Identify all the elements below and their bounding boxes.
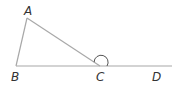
segment-ac xyxy=(27,18,100,66)
segment-ab xyxy=(16,18,27,66)
label-d: D xyxy=(152,70,161,84)
exterior-angle-arc xyxy=(94,55,108,66)
label-c: C xyxy=(96,70,105,84)
label-a: A xyxy=(23,4,32,18)
label-b: B xyxy=(11,70,19,84)
triangle-diagram: A B C D xyxy=(0,0,177,85)
